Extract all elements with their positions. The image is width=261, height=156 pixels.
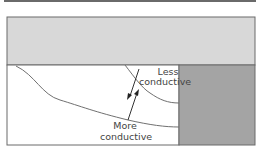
less-conductive-label-2: conductive xyxy=(139,76,183,87)
less-label-line2: conductive xyxy=(139,76,183,87)
more-label-line1: More xyxy=(100,120,150,131)
more-conductive-label: More conductive xyxy=(100,120,150,142)
more-label-line2: conductive xyxy=(100,131,150,142)
top-layer-band xyxy=(7,17,255,65)
